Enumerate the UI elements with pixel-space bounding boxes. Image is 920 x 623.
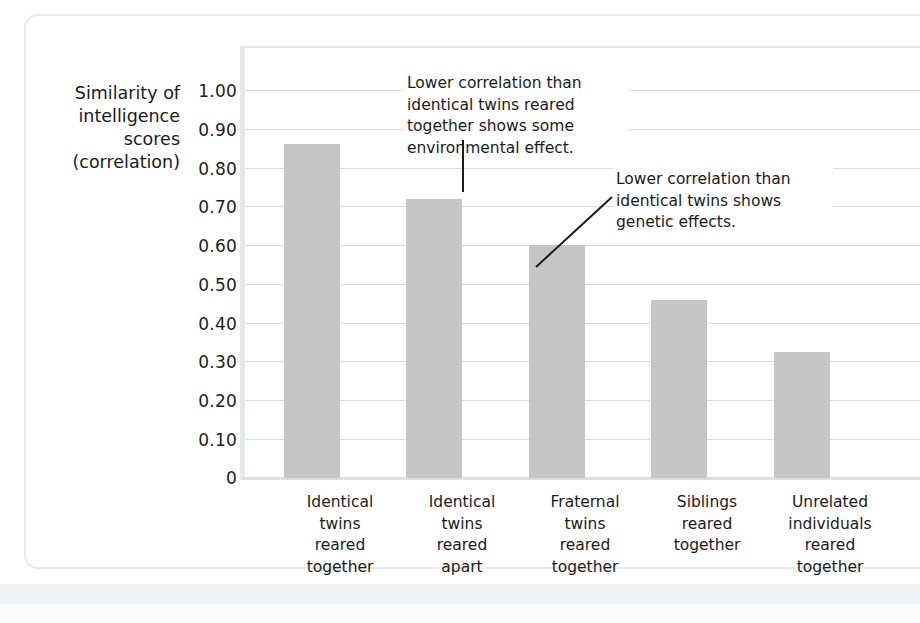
annotation-2-leader-line: [530, 195, 620, 270]
annotation-line: Lower correlation than: [616, 169, 830, 191]
bottom-band: [0, 584, 920, 604]
x-label-line: Siblings: [640, 492, 774, 514]
bar-unrelated-individuals-reared-together: [774, 352, 830, 478]
x-label-line: reared: [763, 535, 897, 557]
x-label-identical-twins-reared-together: Identical twins reared together: [273, 492, 407, 578]
y-tick-0.60: 0.60: [175, 236, 237, 256]
annotation-line: environmental effect.: [407, 138, 625, 160]
x-label-line: reared: [395, 535, 529, 557]
x-label-line: Unrelated: [763, 492, 897, 514]
x-label-siblings-reared-together: Siblings reared together: [640, 492, 774, 557]
x-label-line: Fraternal: [518, 492, 652, 514]
x-label-unrelated-individuals-reared-together: Unrelated individuals reared together: [763, 492, 897, 578]
y-axis-title-line-3: scores: [40, 128, 180, 151]
x-label-line: together: [763, 557, 897, 579]
x-label-line: individuals: [763, 514, 897, 536]
x-label-line: Identical: [273, 492, 407, 514]
y-tick-0: 0: [175, 468, 237, 488]
bar-siblings-reared-together: [651, 300, 707, 478]
annotation-line: identical twins reared: [407, 95, 625, 117]
chart-page: Similarity of intelligence scores (corre…: [0, 0, 920, 623]
x-label-line: together: [518, 557, 652, 579]
bar-identical-twins-reared-apart: [406, 199, 462, 478]
x-label-line: Identical: [395, 492, 529, 514]
y-tick-0.30: 0.30: [175, 352, 237, 372]
annotation-line: together shows some: [407, 116, 625, 138]
y-axis-title-line-2: intelligence: [40, 105, 180, 128]
y-tick-0.50: 0.50: [175, 275, 237, 295]
x-label-line: together: [273, 557, 407, 579]
x-label-line: twins: [273, 514, 407, 536]
x-label-line: apart: [395, 557, 529, 579]
bottom-band-lower: [0, 604, 920, 623]
x-label-line: twins: [395, 514, 529, 536]
y-tick-0.10: 0.10: [175, 430, 237, 450]
y-tick-1.00: 1.00: [175, 81, 237, 101]
y-axis-line: [240, 46, 245, 480]
y-tick-0.40: 0.40: [175, 314, 237, 334]
y-axis-title-line-4: (correlation): [40, 151, 180, 174]
x-label-line: together: [640, 535, 774, 557]
y-axis-title-line-1: Similarity of: [40, 82, 180, 105]
annotation-1-leader-line: [462, 140, 464, 192]
x-label-line: reared: [273, 535, 407, 557]
bar-identical-twins-reared-together: [284, 144, 340, 478]
annotation-environmental-effect: Lower correlation than identical twins r…: [404, 72, 628, 160]
x-label-line: reared: [518, 535, 652, 557]
annotation-line: Lower correlation than: [407, 73, 625, 95]
y-axis-title: Similarity of intelligence scores (corre…: [40, 82, 180, 174]
x-label-identical-twins-reared-apart: Identical twins reared apart: [395, 492, 529, 578]
y-tick-0.70: 0.70: [175, 197, 237, 217]
y-tick-0.80: 0.80: [175, 159, 237, 179]
y-tick-0.90: 0.90: [175, 120, 237, 140]
annotation-line: genetic effects.: [616, 212, 830, 234]
y-tick-0.20: 0.20: [175, 391, 237, 411]
annotation-line: identical twins shows: [616, 191, 830, 213]
x-label-fraternal-twins-reared-together: Fraternal twins reared together: [518, 492, 652, 578]
x-label-line: twins: [518, 514, 652, 536]
bar-fraternal-twins-reared-together: [529, 245, 585, 478]
x-label-line: reared: [640, 514, 774, 536]
annotation-genetic-effects: Lower correlation than identical twins s…: [613, 168, 833, 235]
